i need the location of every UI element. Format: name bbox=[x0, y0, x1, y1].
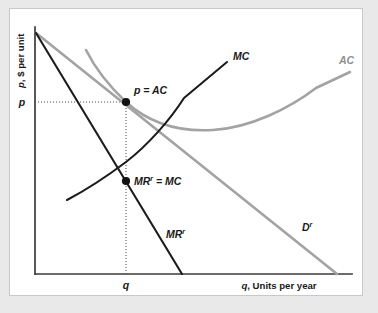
demand-curve-label: Dr bbox=[302, 221, 314, 233]
mr-mc-label-suffix: = MC bbox=[153, 175, 182, 187]
mc-curve-label: MC bbox=[233, 50, 250, 62]
axis-group bbox=[35, 27, 352, 274]
mr-curve-label-superscript: r bbox=[182, 228, 186, 235]
ac-curve-label: AC bbox=[338, 54, 355, 66]
economics-chart: MC AC MRr Dr p = AC MRr = MC p q p, $ pe… bbox=[0, 0, 378, 313]
y-axis-tick-label-p: p bbox=[18, 96, 26, 108]
mr-curve-label: MRr bbox=[166, 228, 186, 240]
x-axis-tick-label-q: q bbox=[123, 279, 130, 291]
guide-lines-group bbox=[35, 102, 126, 274]
y-axis-title: p, $ per unit bbox=[15, 33, 26, 89]
equilibrium-price-label: p = AC bbox=[133, 84, 168, 96]
x-axis-title: q, Units per year bbox=[241, 280, 316, 291]
average-cost-curve-ac bbox=[86, 50, 350, 130]
figure-root: MC AC MRr Dr p = AC MRr = MC p q p, $ pe… bbox=[0, 0, 378, 313]
mr-mc-label-base: MR bbox=[134, 175, 151, 187]
demand-curve-label-superscript: r bbox=[310, 221, 314, 228]
marginal-revenue-curve-mr bbox=[36, 33, 182, 274]
y-axis-title-rest: , $ per unit bbox=[15, 33, 26, 82]
demand-curve-dr bbox=[36, 33, 337, 274]
mr-equals-mc-label: MRr = MC bbox=[134, 175, 182, 187]
mr-equals-mc-dot bbox=[122, 177, 130, 185]
equilibrium-price-dot bbox=[122, 98, 130, 106]
mr-curve-label-base: MR bbox=[166, 228, 183, 240]
x-axis-title-rest: , Units per year bbox=[247, 280, 317, 291]
